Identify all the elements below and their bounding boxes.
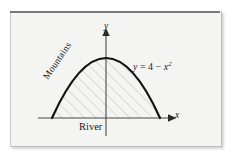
equation-minus: −: [156, 61, 164, 72]
equation-equals: = 4: [137, 61, 155, 72]
y-axis-label: y: [104, 22, 108, 32]
equation-exponent: 2: [168, 60, 172, 68]
x-axis-label: x: [175, 111, 179, 121]
river-label: River: [79, 122, 102, 133]
figure-container: y = 4 − x2 Mountains River y x: [0, 0, 232, 161]
parabola-diagram: [0, 0, 232, 161]
equation-label: y = 4 − x2: [133, 61, 172, 72]
